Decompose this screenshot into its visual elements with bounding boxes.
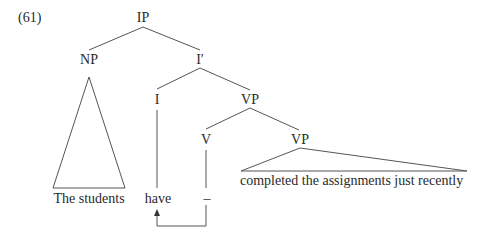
edge-vp-v	[206, 108, 250, 129]
node-i: I	[155, 92, 160, 108]
node-vp-lower: VP	[291, 132, 309, 148]
example-number: (61)	[18, 10, 41, 26]
edge-ibar-i	[157, 68, 200, 89]
leaf-predicate: completed the assignments just recently	[240, 173, 463, 189]
vp-triangle	[241, 148, 467, 171]
edge-vp-vp	[250, 108, 299, 130]
edge-ip-np	[89, 27, 143, 50]
movement-path	[157, 205, 206, 226]
leaf-subject: The students	[53, 191, 124, 207]
node-vp-upper: VP	[241, 92, 259, 108]
edge-ibar-vp	[200, 68, 250, 90]
node-ip: IP	[137, 10, 149, 26]
arrowhead-icon	[154, 209, 160, 216]
leaf-trace: –	[204, 191, 211, 207]
node-v: V	[201, 132, 211, 148]
np-triangle	[53, 77, 125, 188]
node-np: NP	[80, 52, 98, 68]
leaf-aux: have	[145, 191, 171, 207]
edge-ip-ibar	[143, 27, 200, 50]
node-i-bar: I′	[196, 52, 204, 68]
